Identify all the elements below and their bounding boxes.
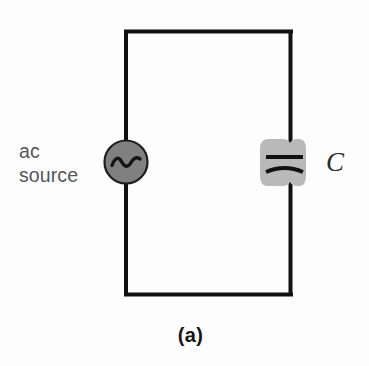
- capacitor-highlight-blob: [260, 139, 306, 186]
- ac-source-circle: [105, 141, 148, 184]
- figure-caption-text: (a): [178, 324, 204, 347]
- ac-source-symbol: [105, 141, 148, 184]
- circuit-figure: ac source C (a): [0, 0, 369, 366]
- capacitor-glow-shape: [260, 139, 306, 186]
- figure-caption: (a): [0, 324, 369, 347]
- ac-source-label: ac source: [19, 139, 105, 187]
- capacitor-label: C: [326, 147, 344, 177]
